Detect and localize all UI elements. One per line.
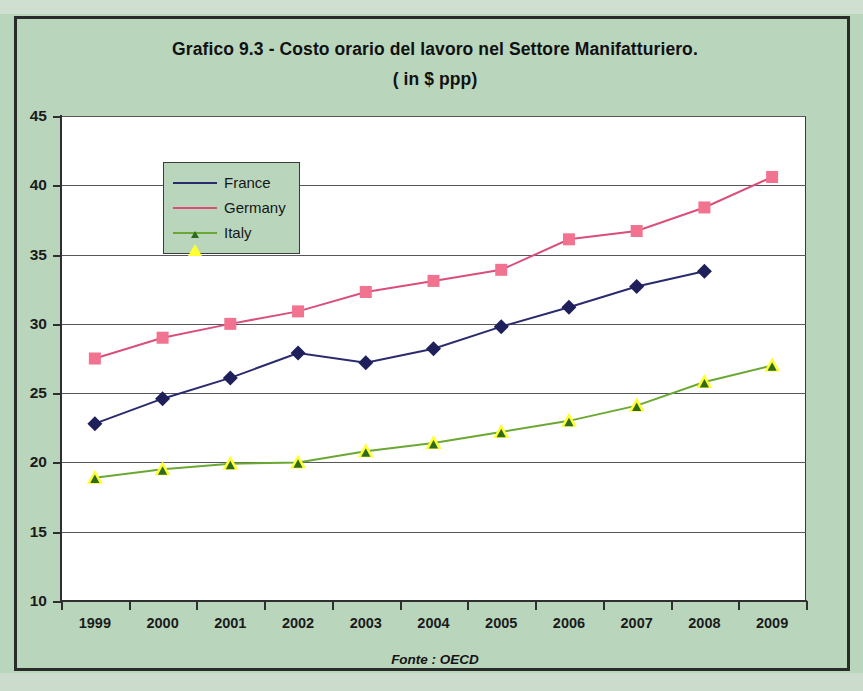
diamond-marker-icon bbox=[426, 341, 441, 356]
chart-title: Grafico 9.3 - Costo orario del lavoro ne… bbox=[17, 39, 853, 90]
series-line bbox=[95, 365, 772, 477]
page-bottom-edge bbox=[0, 673, 863, 691]
x-axis-tick bbox=[806, 601, 808, 610]
x-axis-tick-label: 2003 bbox=[350, 615, 382, 631]
square-marker-icon bbox=[766, 171, 778, 183]
y-axis-tick-label: 10 bbox=[30, 592, 47, 610]
x-axis-tick bbox=[467, 601, 469, 610]
y-axis-tick-label: 25 bbox=[30, 384, 47, 402]
y-axis-tick-label: 35 bbox=[30, 246, 47, 264]
x-axis-tick bbox=[129, 601, 131, 610]
diamond-marker-icon bbox=[291, 345, 306, 360]
legend-key-germany bbox=[173, 201, 217, 215]
legend-key-france bbox=[173, 176, 217, 190]
legend-item-germany: Germany bbox=[173, 195, 286, 220]
series-france bbox=[87, 264, 712, 431]
x-axis-tick bbox=[535, 601, 537, 610]
x-axis-tick bbox=[61, 601, 63, 610]
y-axis-tick-label: 20 bbox=[30, 453, 47, 471]
diamond-marker-icon bbox=[223, 370, 238, 385]
square-marker-icon bbox=[89, 353, 101, 365]
x-axis-tick-label: 2006 bbox=[553, 615, 585, 631]
square-marker-icon bbox=[360, 286, 372, 298]
diamond-marker-icon bbox=[87, 416, 102, 431]
diamond-marker-icon bbox=[155, 391, 170, 406]
x-axis-tick-label: 2005 bbox=[485, 615, 517, 631]
y-axis-tick-label: 40 bbox=[30, 176, 47, 194]
square-marker-icon bbox=[631, 225, 643, 237]
square-marker-icon bbox=[224, 318, 236, 330]
x-axis-tick-label: 2002 bbox=[282, 615, 314, 631]
x-axis-tick-label: 2000 bbox=[146, 615, 178, 631]
chart-title-line2: ( in $ ppp) bbox=[17, 69, 853, 90]
square-marker-icon bbox=[157, 332, 169, 344]
chart-title-line1: Grafico 9.3 - Costo orario del lavoro ne… bbox=[17, 39, 853, 60]
diamond-marker-icon bbox=[697, 264, 712, 279]
square-marker-icon bbox=[495, 264, 507, 276]
square-marker-icon bbox=[563, 233, 575, 245]
square-marker-icon bbox=[292, 305, 304, 317]
x-axis-tick-label: 2009 bbox=[756, 615, 788, 631]
legend-label-germany: Germany bbox=[224, 199, 286, 216]
legend-label-france: France bbox=[224, 174, 271, 191]
x-axis-tick bbox=[671, 601, 673, 610]
scanned-page: Grafico 9.3 - Costo orario del lavoro ne… bbox=[0, 0, 863, 691]
page-top-edge bbox=[0, 0, 863, 14]
x-axis-tick-label: 2008 bbox=[688, 615, 720, 631]
legend-label-italy: Italy bbox=[224, 224, 252, 241]
plot-area: 1015202530354045 19992000200120022003200… bbox=[61, 116, 806, 601]
x-axis-tick-label: 2001 bbox=[214, 615, 246, 631]
y-axis-tick-label: 15 bbox=[30, 523, 47, 541]
source-note: Fonte : OECD bbox=[17, 652, 853, 667]
y-axis-tick-label: 45 bbox=[30, 107, 47, 125]
square-marker-icon bbox=[698, 201, 710, 213]
x-axis-tick bbox=[738, 601, 740, 610]
triangle-marker-icon bbox=[188, 227, 202, 256]
x-axis-tick bbox=[603, 601, 605, 610]
x-axis-tick bbox=[400, 601, 402, 610]
series-line bbox=[95, 271, 705, 423]
legend-key-italy bbox=[173, 226, 217, 240]
x-axis-tick-label: 2007 bbox=[621, 615, 653, 631]
diamond-marker-icon bbox=[629, 279, 644, 294]
legend-item-italy: Italy bbox=[173, 220, 286, 245]
x-axis-tick bbox=[196, 601, 198, 610]
diamond-marker-icon bbox=[561, 300, 576, 315]
x-axis-tick-label: 1999 bbox=[79, 615, 111, 631]
legend-item-france: France bbox=[173, 170, 286, 195]
square-marker-icon bbox=[428, 275, 440, 287]
diamond-marker-icon bbox=[358, 355, 373, 370]
x-axis-tick-label: 2004 bbox=[417, 615, 449, 631]
x-axis-tick bbox=[332, 601, 334, 610]
figure-frame: Grafico 9.3 - Costo orario del lavoro ne… bbox=[14, 16, 850, 671]
diamond-marker-icon bbox=[494, 319, 509, 334]
chart-legend: France Germany Italy bbox=[163, 162, 300, 254]
x-axis-tick bbox=[264, 601, 266, 610]
y-axis-tick-label: 30 bbox=[30, 315, 47, 333]
series-italy bbox=[87, 357, 780, 483]
